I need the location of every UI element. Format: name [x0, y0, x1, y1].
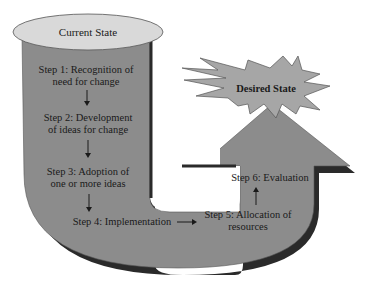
change-process-diagram: Current State Desired State Step 1: Reco…	[0, 0, 371, 287]
step-3-line-2: one or more ideas	[51, 178, 126, 189]
step-3-line-1: Step 3: Adoption of	[47, 166, 130, 177]
step-3: Step 3: Adoption of one or more ideas	[47, 166, 130, 189]
step-5-line-2: resources	[228, 221, 268, 232]
step-6-line-1: Step 6: Evaluation	[231, 172, 309, 183]
step-2: Step 2: Development of ideas for change	[44, 112, 133, 135]
step-2-line-2: of ideas for change	[48, 124, 129, 135]
step-5-line-1: Step 5: Allocation of	[204, 209, 292, 220]
current-state-label: Current State	[59, 26, 117, 38]
step-1-line-1: Step 1: Recognition of	[39, 64, 134, 75]
desired-state-label: Desired State	[236, 83, 296, 94]
step-2-line-1: Step 2: Development	[44, 112, 133, 123]
step-1-line-2: need for change	[52, 76, 119, 87]
step-4-line-1: Step 4: Implementation	[73, 216, 172, 227]
step-6: Step 6: Evaluation	[231, 172, 309, 183]
u-inner-cutout	[150, 36, 240, 210]
step-4: Step 4: Implementation	[73, 216, 172, 227]
